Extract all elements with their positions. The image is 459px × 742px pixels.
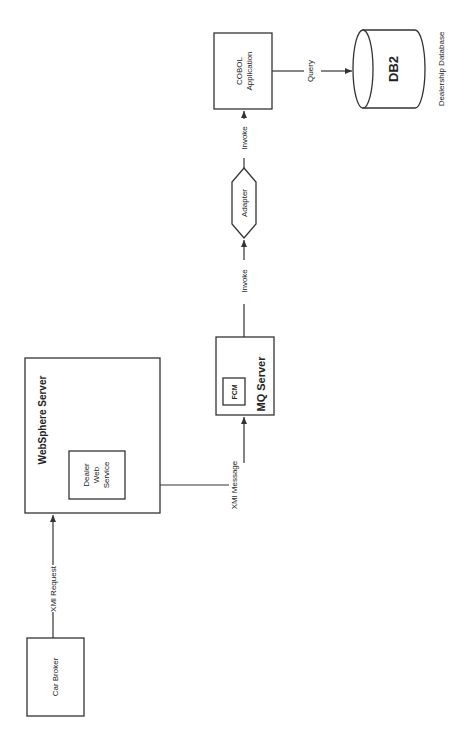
query-label: Query: [306, 60, 315, 82]
websphere-title: WebSphere Server: [37, 376, 48, 465]
car-broker-node: Car Broker: [27, 638, 84, 716]
xml-message-edge: XMl Message: [160, 417, 244, 509]
car-broker-label: Car Broker: [51, 657, 60, 696]
architecture-diagram: Car Broker XMl Request WebSphere Server …: [0, 0, 459, 742]
invoke-edge-adapter-to-cobol: Invoke: [240, 111, 249, 168]
dealer-web-service-node: Dealer Web Service: [69, 451, 125, 499]
invoke-label-2: Invoke: [240, 126, 249, 150]
mq-server-title: MQ Server: [255, 356, 267, 412]
dealer-web-service-line2: Web: [92, 466, 101, 483]
mq-server-node: FCM MQ Server: [216, 337, 274, 415]
fcm-node: FCM: [223, 378, 245, 405]
invoke-edge-mq-to-adapter: Invoke: [240, 240, 249, 337]
dealership-database-caption: Dealership Database: [437, 31, 446, 106]
xml-request-edge: XMl Request: [49, 515, 58, 638]
adapter-node: Adapter: [232, 168, 256, 238]
db2-label: DB2: [386, 56, 401, 82]
dealer-web-service-line1: Dealer: [82, 463, 91, 487]
xml-request-label: XMl Request: [49, 565, 58, 612]
db2-database-node: DB2: [353, 30, 425, 108]
invoke-label-1: Invoke: [240, 269, 249, 293]
xml-message-label: XMl Message: [230, 460, 239, 509]
cobol-application-node: COBOL Application: [214, 33, 272, 109]
fcm-label: FCM: [231, 384, 238, 399]
adapter-label: Adapter: [240, 189, 249, 217]
cobol-line2: Application: [245, 51, 254, 90]
websphere-server-node: WebSphere Server Dealer Web Service: [25, 358, 160, 513]
cobol-line1: COBOL: [235, 56, 244, 85]
dealer-web-service-line3: Service: [102, 461, 111, 488]
query-edge: Query: [272, 60, 352, 82]
